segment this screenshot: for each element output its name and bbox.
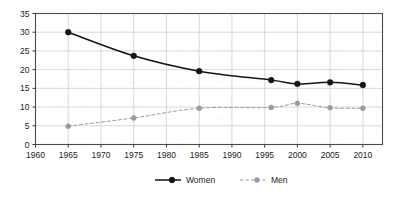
data-point-men-2010 [360, 106, 365, 111]
x-tick-label: 2000 [288, 150, 307, 160]
series-data-points [65, 29, 365, 128]
x-tick-label: 1960 [26, 150, 45, 160]
data-point-women-1975 [131, 53, 137, 59]
y-tick-label: 10 [20, 102, 30, 112]
x-tick-label: 1970 [92, 150, 111, 160]
data-point-women-1985 [196, 68, 202, 74]
data-point-women-2010 [360, 82, 366, 88]
y-axis-tick-labels: 05101520253035 [20, 9, 30, 150]
data-point-men-1996 [269, 105, 274, 110]
data-point-men-1965 [66, 124, 71, 129]
x-tick-label: 1975 [124, 150, 143, 160]
y-tick-label: 20 [20, 65, 30, 75]
data-point-women-2005 [327, 79, 333, 85]
data-point-women-2000 [294, 81, 300, 87]
axis-tick-marks [33, 14, 363, 148]
y-tick-label: 0 [25, 140, 30, 150]
x-tick-label: 1985 [190, 150, 209, 160]
legend-label: Women [186, 175, 215, 185]
x-tick-label: 2010 [353, 150, 372, 160]
y-tick-label: 35 [20, 9, 30, 19]
data-point-men-2000 [295, 101, 300, 106]
y-tick-label: 25 [20, 46, 30, 56]
y-tick-label: 30 [20, 27, 30, 37]
y-tick-label: 15 [20, 83, 30, 93]
data-point-men-2005 [328, 105, 333, 110]
legend-marker [255, 178, 260, 183]
x-tick-label: 2005 [321, 150, 340, 160]
legend-item-men: Men [240, 175, 288, 185]
data-point-women-1965 [65, 29, 71, 35]
x-tick-label: 1965 [59, 150, 78, 160]
data-point-men-1985 [197, 106, 202, 111]
x-axis-tick-labels: 1960196519701975198019851990199520002005… [26, 150, 373, 160]
line-chart: 05101520253035 1960196519701975198019851… [0, 0, 400, 198]
chart-legend: WomenMen [155, 175, 288, 185]
x-tick-label: 1990 [222, 150, 241, 160]
series-lines [68, 32, 363, 126]
legend-label: Men [271, 175, 288, 185]
x-tick-label: 1980 [157, 150, 176, 160]
legend-marker [169, 177, 175, 183]
chart-canvas: 05101520253035 1960196519701975198019851… [0, 0, 400, 198]
legend-item-women: Women [155, 175, 215, 185]
data-point-men-1975 [131, 115, 136, 120]
series-line-women [68, 32, 363, 85]
x-tick-label: 1995 [255, 150, 274, 160]
vertical-gridlines [68, 14, 363, 145]
data-point-women-1996 [268, 77, 274, 83]
y-tick-label: 5 [25, 121, 30, 131]
